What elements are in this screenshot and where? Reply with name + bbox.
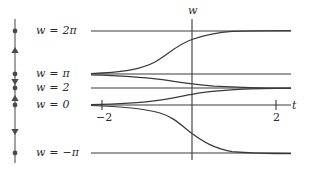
tick-label-minus-2: −2	[96, 112, 112, 123]
equilibrium-label-0: w = 0	[36, 99, 70, 110]
solution-curves-figure: w = 2π w = π w = 2 w = 0 w = −π w t −2 2	[0, 0, 309, 178]
w-axis-label: w	[188, 5, 197, 16]
labels-layer: w = 2π w = π w = 2 w = 0 w = −π w t −2 2	[0, 0, 309, 178]
equilibrium-label-neg-pi: w = −π	[36, 147, 79, 158]
t-axis-label: t	[292, 100, 296, 111]
equilibrium-label-2: w = 2	[36, 82, 70, 93]
equilibrium-label-2pi: w = 2π	[36, 25, 77, 36]
tick-label-2: 2	[273, 112, 280, 123]
equilibrium-label-pi: w = π	[36, 68, 70, 79]
